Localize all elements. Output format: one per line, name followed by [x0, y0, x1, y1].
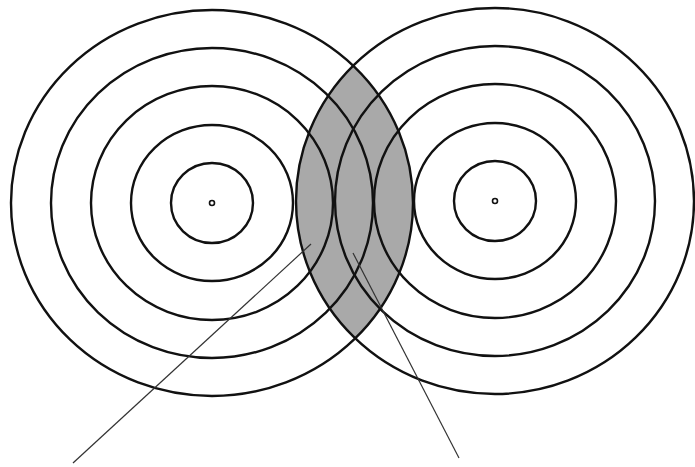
overlapping-wave-circles-diagram [0, 0, 695, 467]
